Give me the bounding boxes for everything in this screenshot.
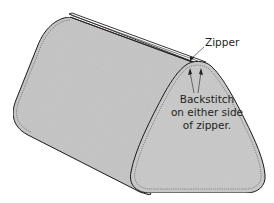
backstitch-note-line-2: on either side: [171, 106, 243, 118]
zipper-leader-line: [192, 47, 204, 58]
illustration: Zipper Backstitch on either side of zipp…: [0, 0, 274, 203]
backstitch-note-line-1: Backstitch: [180, 93, 235, 105]
backstitch-note-line-3: of zipper.: [183, 119, 231, 131]
zipper-callout: Zipper: [190, 36, 240, 61]
zipper-label: Zipper: [205, 36, 240, 48]
